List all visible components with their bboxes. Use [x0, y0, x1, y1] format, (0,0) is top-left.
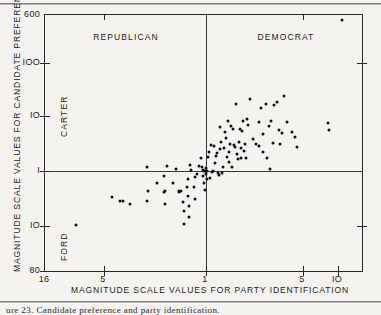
y-tick-4: [45, 226, 50, 227]
scatter-point: [238, 141, 241, 144]
scatter-point: [188, 205, 191, 208]
scatter-point: [294, 136, 297, 139]
scan-edge-rule-top-soft: [0, 4, 381, 5]
x-tick-1: [104, 266, 105, 271]
scatter-point: [203, 182, 206, 185]
scatter-point: [262, 133, 265, 136]
scatter-point: [327, 122, 330, 125]
scatter-point: [245, 157, 248, 160]
ford-branch-label: FORD: [59, 233, 69, 261]
scatter-point: [269, 168, 272, 171]
scatter-point: [190, 169, 193, 172]
x-tick-top-1: [104, 15, 105, 20]
scatter-point: [229, 143, 232, 146]
scatter-point: [194, 176, 197, 179]
scatter-point: [196, 173, 199, 176]
scatter-point: [194, 198, 197, 201]
y-tick-3: [45, 171, 50, 172]
scatter-point: [175, 168, 178, 171]
scatter-point: [164, 203, 167, 206]
scatter-point: [207, 156, 210, 159]
scatter-point: [164, 190, 167, 193]
x-tick-top-3: [303, 15, 304, 20]
scan-edge-rule-bottom-soft: [0, 302, 381, 303]
scatter-point: [208, 151, 211, 154]
scatter-point: [213, 145, 216, 148]
scatter-point: [226, 156, 229, 159]
scatter-point: [279, 143, 282, 146]
scatter-point: [227, 120, 230, 123]
scatter-point: [204, 189, 207, 192]
scatter-point: [266, 157, 269, 160]
scatter-point: [163, 175, 166, 178]
scatter-point: [240, 157, 243, 160]
scatter-point: [111, 196, 114, 199]
scatter-point: [147, 190, 150, 193]
scatter-point: [231, 166, 234, 169]
scatter-point: [209, 177, 212, 180]
scatter-point: [222, 166, 225, 169]
scatter-point: [296, 146, 299, 149]
y-tick-right-1: [362, 63, 367, 64]
scatter-point: [328, 129, 331, 132]
scatter-point: [219, 126, 222, 129]
scatter-point: [341, 19, 344, 22]
scatter-point: [228, 151, 231, 154]
y-tick-1: [45, 63, 50, 64]
y-tick-2: [45, 116, 50, 117]
scatter-point: [291, 131, 294, 134]
scatter-point: [260, 107, 263, 110]
y-axis-title: MAGNITUDE SCALE VALUES FOR CANDIDATE PRE…: [12, 0, 22, 272]
scatter-point: [225, 137, 228, 140]
scatter-point: [186, 186, 189, 189]
scatter-point: [156, 182, 159, 185]
scatter-point: [258, 121, 261, 124]
x-tick-3: [303, 266, 304, 271]
scatter-point: [172, 182, 175, 185]
scatter-point: [183, 223, 186, 226]
scatter-point: [193, 186, 196, 189]
quadrant-label-democrat: DEMOCRAT: [258, 32, 315, 42]
quadrant-label-republican: REPUBLICAN: [93, 32, 158, 42]
x-tick-label-2: 1: [202, 274, 207, 284]
x-tick-label-3: 5: [299, 274, 304, 284]
scatter-point: [258, 145, 261, 148]
y-tick-right-4: [357, 226, 362, 227]
scatter-point: [183, 210, 186, 213]
scatter-point: [236, 153, 239, 156]
scatter-point: [216, 152, 219, 155]
scatter-point: [228, 161, 231, 164]
scatter-point: [200, 157, 203, 160]
scatter-point: [249, 98, 252, 101]
scatter-point: [189, 164, 192, 167]
figure-caption: ure 23. Candidate preference and party i…: [6, 305, 220, 315]
scatter-point: [223, 147, 226, 150]
x-axis-title: MAGNITUDE SCALE VALUES FOR PARTY IDENTIF…: [71, 285, 349, 295]
scatter-point: [146, 166, 149, 169]
scatter-point: [281, 132, 284, 135]
scatter-point: [188, 216, 191, 219]
scatter-point: [214, 162, 217, 165]
scatter-point: [221, 172, 224, 175]
scatter-point: [242, 120, 245, 123]
y-tick-5: [45, 271, 50, 272]
scatter-point: [182, 201, 185, 204]
carter-branch-label: CARTER: [59, 96, 69, 137]
scatter-point: [262, 151, 265, 154]
scatter-point: [283, 95, 286, 98]
x-tick-4: [338, 266, 339, 271]
scatter-point: [122, 200, 125, 203]
scatter-point: [220, 141, 223, 144]
scatter-point: [272, 142, 275, 145]
scatter-point: [129, 203, 132, 206]
scatter-point: [187, 195, 190, 198]
scatter-point: [244, 143, 247, 146]
plot-frame: REPUBLICANDEMOCRAT CARTER FORD: [44, 14, 363, 272]
scatter-point: [243, 150, 246, 153]
scatter-point: [268, 125, 271, 128]
scatter-point: [265, 103, 268, 106]
scatter-point: [247, 124, 250, 127]
x-tick-label-1: 5: [100, 274, 105, 284]
scatter-point: [205, 173, 208, 176]
